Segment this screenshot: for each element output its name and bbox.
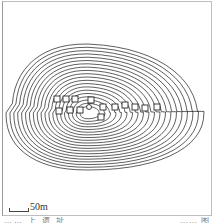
site-feature-marker <box>122 102 128 108</box>
site-feature-marker <box>56 108 62 114</box>
scale-bar-line <box>9 208 29 212</box>
site-feature-marker <box>67 107 73 113</box>
contour-map <box>0 0 218 223</box>
site-feature-marker <box>98 114 104 120</box>
site-feature-marker <box>77 107 83 113</box>
caption-right: …… 图 <box>180 217 210 223</box>
site-feature-marker <box>100 104 106 110</box>
site-feature-marker <box>72 96 78 102</box>
scale-bar: 50m <box>9 202 48 212</box>
site-feature-marker <box>63 96 69 102</box>
figure-caption: …… 上 遗 址 …… 图 <box>0 217 218 223</box>
site-feature-marker <box>112 104 118 110</box>
site-feature-marker <box>142 105 148 111</box>
contour-line <box>49 80 144 140</box>
scale-bar-label: 50m <box>30 202 48 212</box>
site-feature-marker <box>154 104 160 110</box>
site-feature-marker <box>88 97 94 103</box>
site-feature-marker <box>87 105 92 110</box>
site-feature-marker <box>54 96 60 102</box>
site-feature-marker <box>132 104 138 110</box>
caption-left: …… 上 遗 址 <box>4 217 66 223</box>
